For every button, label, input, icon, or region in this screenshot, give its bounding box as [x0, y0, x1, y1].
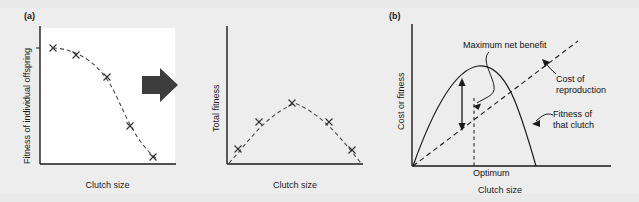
panel-a2-y-axis-title: Total fitness	[211, 84, 221, 132]
panel-a2-x-axis-title: Clutch size	[227, 180, 363, 190]
panel-a-y-axis-title: Fitness of individual offspring	[22, 48, 32, 164]
panel-a-x-axis-title: Clutch size	[40, 180, 175, 190]
panel-b-label: (b)	[389, 11, 401, 21]
maximum-net-benefit-annotation: Maximum net benefit	[463, 40, 547, 51]
panel-a-plot-area	[40, 28, 175, 164]
fitness-of-that-clutch-annotation: Fitness of that clutch	[553, 109, 594, 131]
panel-b-x-axis-title: Clutch size	[440, 185, 560, 195]
optimum-annotation: Optimum	[473, 168, 510, 178]
panel-b-y-axis-title: Cost or fitness	[396, 72, 406, 130]
figure-container: (a) Fitness of individual offspring Clut…	[0, 0, 639, 202]
cost-of-reproduction-annotation: Cost of reproduction	[556, 74, 606, 96]
panel-a-label: (a)	[24, 11, 35, 21]
